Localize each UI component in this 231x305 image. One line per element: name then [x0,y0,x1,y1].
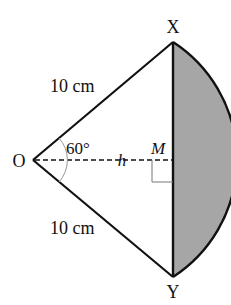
label-X: X [167,17,180,37]
label-radius-bottom: 10 cm [50,218,95,238]
right-angle-marker [152,160,173,182]
label-M: M [150,139,166,158]
label-h: h [118,151,127,170]
shaded-segment [173,42,231,277]
label-radius-top: 10 cm [50,76,95,96]
label-Y: Y [167,282,180,302]
sector-diagram: X Y O M h 60° 10 cm 10 cm [0,0,231,305]
label-angle: 60° [66,139,90,158]
label-O: O [13,151,26,171]
